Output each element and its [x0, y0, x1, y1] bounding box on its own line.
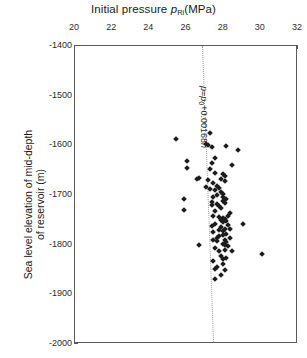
- scatter-point: [222, 268, 228, 274]
- figure-container: Initial pressure pRi(MPa) Sea level elev…: [0, 0, 307, 358]
- y-axis-label: Sea level elevation of mid-depth of rese…: [23, 105, 46, 305]
- scatter-point: [229, 162, 235, 168]
- scatter-point: [173, 136, 179, 142]
- x-tick-mark: [297, 45, 298, 49]
- y-axis-label-line1: Sea level elevation of mid-depth: [23, 105, 35, 305]
- scatter-point: [227, 235, 233, 241]
- scatter-point: [229, 248, 235, 254]
- scatter-point: [181, 207, 187, 213]
- annotation-p: p: [199, 86, 209, 91]
- scatter-point: [185, 165, 191, 171]
- scatter-point: [222, 178, 228, 184]
- chart-title-units: (MPa): [184, 3, 216, 15]
- y-tick-label: -1600: [49, 139, 72, 149]
- scatter-point: [209, 144, 215, 150]
- y-tick-label: -1800: [49, 239, 72, 249]
- scatter-point: [240, 221, 246, 227]
- scatter-point: [218, 205, 224, 211]
- y-tick-label: -1500: [49, 90, 72, 100]
- trend-line-annotation: p=p0+0.00168h: [198, 86, 209, 148]
- y-axis-label-line2: of reservoir (m): [34, 105, 46, 305]
- scatter-point: [212, 155, 218, 161]
- chart-title: Initial pressure pRi(MPa): [0, 3, 307, 17]
- scatter-point: [235, 147, 241, 153]
- scatter-point: [207, 166, 213, 172]
- scatter-point: [211, 229, 217, 235]
- plot-area: p=p0+0.00168h: [74, 45, 297, 343]
- scatter-point: [212, 277, 218, 283]
- x-tick-label: 22: [106, 22, 116, 32]
- y-tick-label: -1900: [49, 288, 72, 298]
- annotation-coefficient: +0.00168: [199, 105, 209, 143]
- x-tick-label: 30: [255, 22, 265, 32]
- x-tick-label: 32: [292, 22, 302, 32]
- chart-title-main: Initial pressure: [91, 3, 171, 15]
- scatter-point: [185, 158, 191, 164]
- scatter-point: [227, 226, 233, 232]
- y-tick-label: -1400: [49, 40, 72, 50]
- scatter-point: [259, 251, 265, 257]
- x-tick-label: 26: [180, 22, 190, 32]
- scatter-point: [218, 273, 224, 279]
- x-tick-label: 28: [218, 22, 228, 32]
- scatter-point: [211, 258, 217, 264]
- scatter-point: [181, 196, 187, 202]
- scatter-point: [224, 143, 230, 149]
- y-tick-label: -1700: [49, 189, 72, 199]
- x-tick-label: 20: [69, 22, 79, 32]
- scatter-point: [212, 170, 218, 176]
- y-tick-mark: [74, 343, 78, 344]
- x-tick-label: 24: [143, 22, 153, 32]
- scatter-point: [196, 242, 202, 248]
- y-tick-label: -2000: [49, 338, 72, 348]
